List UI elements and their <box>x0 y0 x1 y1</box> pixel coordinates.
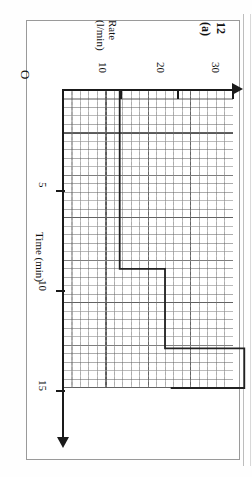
page-edge-strip <box>243 14 251 466</box>
question-number: 12 (a) <box>198 22 228 46</box>
rate-axis-line <box>63 89 235 91</box>
rate-tick-10 <box>120 90 122 99</box>
time-tick-label-10: 10 <box>37 280 48 291</box>
screenshot-page: 12 (a) O Rate (l/min) Time (min) 10 20 3… <box>0 0 252 477</box>
time-tick-label-15: 15 <box>37 380 48 391</box>
time-axis-label: Time (min) <box>34 232 46 282</box>
origin-label: O <box>17 70 33 79</box>
rate-axis-label-line1: Rate <box>106 20 118 51</box>
time-tick-15 <box>56 390 65 392</box>
rate-tick-20 <box>177 90 179 99</box>
rate-tick-30 <box>232 90 234 99</box>
time-axis-arrow-icon <box>57 437 69 448</box>
time-axis-line <box>62 89 64 441</box>
time-tick-10 <box>56 290 65 292</box>
rate-tick-label-10: 10 <box>97 62 108 73</box>
plot-area <box>63 90 233 388</box>
rate-axis-label-line2: (l/min) <box>95 20 107 51</box>
time-tick-label-5: 5 <box>37 182 48 188</box>
rate-axis-label: Rate (l/min) <box>95 20 118 51</box>
graph-paper-grid <box>63 90 233 388</box>
rate-tick-label-20: 20 <box>155 62 166 73</box>
time-tick-5 <box>56 190 65 192</box>
rate-tick-label-30: 30 <box>210 62 221 73</box>
